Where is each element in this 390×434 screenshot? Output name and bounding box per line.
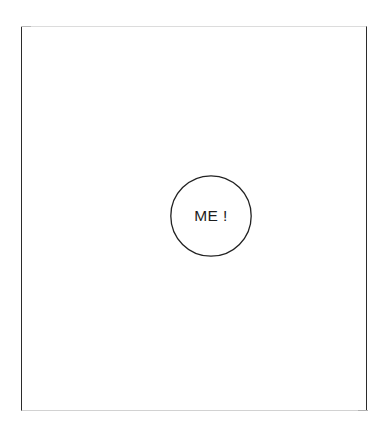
outer-border-rectangle: ME ! — [21, 26, 367, 411]
node-me-label: ME ! — [170, 175, 252, 257]
node-me[interactable]: ME ! — [170, 175, 252, 257]
drawing-canvas: ME ! — [0, 0, 390, 434]
